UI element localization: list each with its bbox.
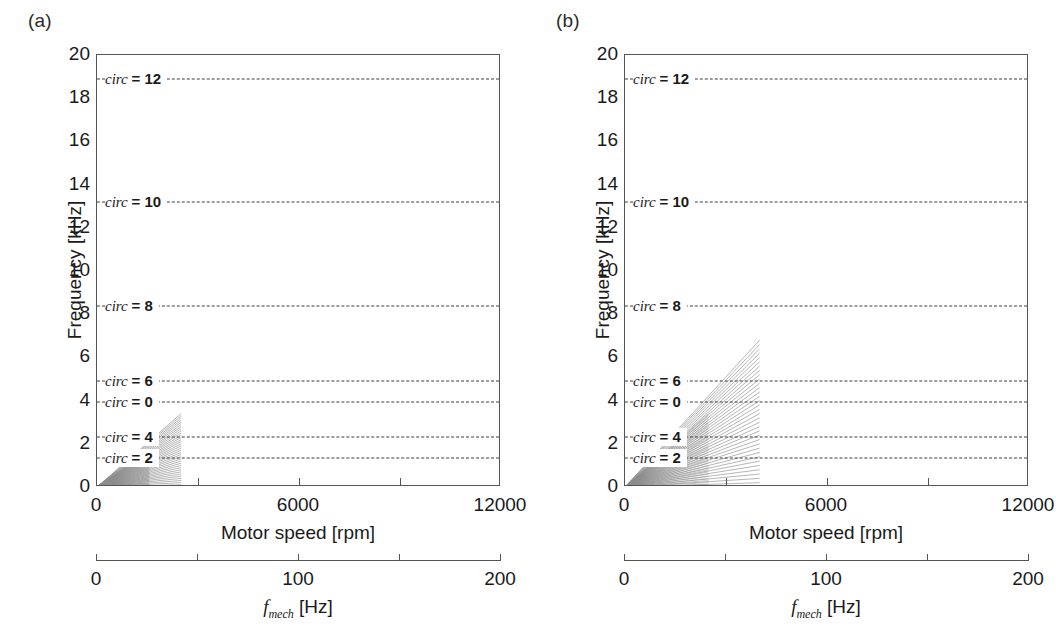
y-tick-label-8: 8 <box>580 302 618 324</box>
y-tick-label-20: 20 <box>580 43 618 65</box>
circ-label-0: circ = 0 <box>633 393 687 411</box>
circ-label-6: circ = 6 <box>633 372 687 390</box>
circ-label-10: circ = 10 <box>633 193 695 211</box>
circ-label-4: circ = 4 <box>105 428 159 446</box>
circ-label-12: circ = 12 <box>105 70 167 88</box>
y-tick-label-14: 14 <box>580 173 618 195</box>
secondary-tick-200 <box>1028 554 1029 561</box>
x-tick-6000 <box>299 478 300 485</box>
x-tick-3000 <box>726 478 727 485</box>
circ-label-2: circ = 2 <box>105 449 159 467</box>
secondary-tick-150 <box>927 554 928 561</box>
secondary-axis-a <box>96 560 500 561</box>
secondary-tick-200 <box>500 554 501 561</box>
secondary-tick-0 <box>624 554 625 561</box>
secondary-axis-title-a: fmech [Hz] <box>96 596 500 622</box>
f-unit: [Hz] <box>294 596 333 617</box>
x-tick-label-6000: 6000 <box>277 494 319 516</box>
f-unit: [Hz] <box>822 596 861 617</box>
secondary-axis-title-b: fmech [Hz] <box>624 596 1028 622</box>
circ-label-2: circ = 2 <box>633 449 687 467</box>
x-tick-label-0: 0 <box>91 494 102 516</box>
circ-label-6: circ = 6 <box>105 372 159 390</box>
y-tick-label-4: 4 <box>580 389 618 411</box>
y-tick-label-2: 2 <box>580 432 618 454</box>
secondary-tick-label-200: 200 <box>1012 568 1044 590</box>
y-tick-label-10: 10 <box>580 259 618 281</box>
y-tick-label-0: 0 <box>52 475 90 497</box>
secondary-tick-label-100: 100 <box>282 568 314 590</box>
y-tick-label-8: 8 <box>52 302 90 324</box>
secondary-tick-50 <box>725 554 726 561</box>
circ-label-4: circ = 4 <box>633 428 687 446</box>
x-tick-9000 <box>400 478 401 485</box>
x-axis-title-a: Motor speed [rpm] <box>96 522 500 544</box>
secondary-tick-label-0: 0 <box>619 568 630 590</box>
x-tick-label-12000: 12000 <box>474 494 527 516</box>
x-tick-3000 <box>198 478 199 485</box>
sideband-fan-b <box>625 55 1028 486</box>
f-subscript: mech <box>796 607 821 621</box>
y-tick-label-2: 2 <box>52 432 90 454</box>
panel-a: (a) Frequency [kHz] circ = 12circ = 10ci… <box>0 0 528 632</box>
x-tick-label-6000: 6000 <box>805 494 847 516</box>
circ-label-0: circ = 0 <box>105 393 159 411</box>
y-tick-label-16: 16 <box>580 129 618 151</box>
y-tick-label-16: 16 <box>52 129 90 151</box>
secondary-tick-100 <box>298 554 299 561</box>
y-tick-label-10: 10 <box>52 259 90 281</box>
y-tick-label-14: 14 <box>52 173 90 195</box>
secondary-tick-0 <box>96 554 97 561</box>
secondary-tick-label-200: 200 <box>484 568 516 590</box>
f-subscript: mech <box>268 607 293 621</box>
x-tick-6000 <box>827 478 828 485</box>
secondary-tick-100 <box>826 554 827 561</box>
panel-label-b: (b) <box>556 10 580 32</box>
secondary-tick-label-100: 100 <box>810 568 842 590</box>
x-tick-label-0: 0 <box>619 494 630 516</box>
y-tick-label-0: 0 <box>580 475 618 497</box>
secondary-axis-b <box>624 560 1028 561</box>
circ-label-10: circ = 10 <box>105 193 167 211</box>
secondary-tick-50 <box>197 554 198 561</box>
y-tick-label-4: 4 <box>52 389 90 411</box>
plot-area-b: circ = 12circ = 10circ = 8circ = 6circ =… <box>624 54 1028 486</box>
circ-label-8: circ = 8 <box>633 297 687 315</box>
y-tick-label-6: 6 <box>52 345 90 367</box>
y-tick-label-12: 12 <box>52 216 90 238</box>
y-tick-label-20: 20 <box>52 43 90 65</box>
y-tick-label-18: 18 <box>52 86 90 108</box>
y-tick-label-12: 12 <box>580 216 618 238</box>
y-tick-label-6: 6 <box>580 345 618 367</box>
panel-label-a: (a) <box>28 10 52 32</box>
secondary-tick-150 <box>399 554 400 561</box>
circ-label-8: circ = 8 <box>105 297 159 315</box>
x-tick-9000 <box>928 478 929 485</box>
x-tick-label-12000: 12000 <box>1002 494 1055 516</box>
panel-b: (b) Frequency [kHz] circ = 12circ = 10ci… <box>528 0 1056 632</box>
secondary-tick-label-0: 0 <box>91 568 102 590</box>
x-axis-title-b: Motor speed [rpm] <box>624 522 1028 544</box>
plot-area-a: circ = 12circ = 10circ = 8circ = 6circ =… <box>96 54 500 486</box>
circ-label-12: circ = 12 <box>633 70 695 88</box>
y-tick-label-18: 18 <box>580 86 618 108</box>
sideband-fan-a <box>97 55 500 486</box>
